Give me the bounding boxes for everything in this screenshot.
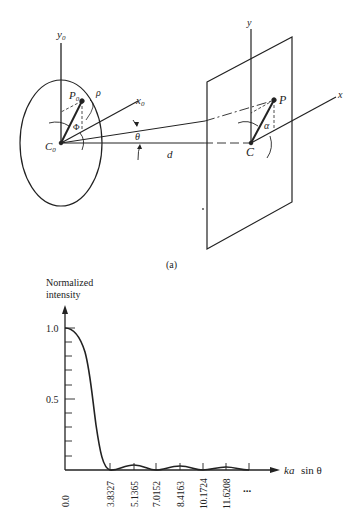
label-phi: Φ — [73, 122, 80, 132]
xlabel-ka: ka — [284, 464, 295, 476]
label-p: P — [278, 93, 287, 107]
xtick-label-4: 8.4163 — [176, 481, 186, 507]
label-y0: y0 — [56, 28, 66, 42]
xlabel-sin-theta: sin θ — [301, 464, 322, 476]
label-y: y — [246, 17, 252, 28]
label-p0: P0 — [68, 89, 80, 103]
label-d: d — [167, 148, 173, 160]
xtick-label-2: 5.1365 — [130, 481, 140, 507]
label-x0: x0 — [135, 94, 145, 108]
phi-arc — [49, 122, 69, 126]
speck — [202, 208, 204, 210]
theta-arrowhead-bottom — [137, 144, 142, 149]
label-theta: θ — [135, 131, 140, 142]
label-rho: ρ — [95, 87, 101, 98]
caption-a: (a) — [166, 259, 177, 271]
phi-arc-lower — [80, 133, 84, 150]
ray-to-p — [61, 121, 205, 143]
c0-point — [59, 141, 63, 145]
y-ticks — [65, 328, 75, 456]
chart-labels: Normalized intensity 1.0 0.5 ka sin θ 0.… — [46, 277, 322, 509]
y-axis-arrowhead — [62, 305, 68, 314]
xtick-label-1: 3.8327 — [106, 481, 116, 507]
alpha-arc — [238, 122, 258, 126]
xtick-ellipsis: ... — [243, 482, 252, 494]
intensity-curve — [65, 328, 249, 470]
diagram-labels: y0 x0 P0 C0 ρ Φ θ d y x P C α (a) — [45, 17, 343, 271]
aperture-diagram — [20, 29, 336, 249]
alpha-arc-lower — [267, 136, 271, 158]
x-axis-arrowhead — [270, 467, 280, 473]
label-alpha: α — [264, 120, 270, 131]
label-x: x — [337, 89, 343, 100]
ylabel-line1: Normalized — [46, 277, 93, 288]
figure: y0 x0 P0 C0 ρ Φ θ d y x P C α (a) — [0, 0, 351, 509]
xtick-label-3: 7.0152 — [152, 481, 162, 507]
ytick-label-1: 1.0 — [46, 323, 59, 334]
xtick-label-5: 10.1724 — [199, 478, 209, 509]
ytick-label-05: 0.5 — [46, 394, 59, 405]
ylabel-line2: intensity — [46, 289, 80, 300]
label-c: C — [246, 145, 255, 159]
theta-arrowhead-top — [134, 122, 139, 127]
intensity-chart — [62, 305, 280, 473]
xtick-label-6: 11.6208 — [222, 478, 232, 509]
label-c0: C0 — [45, 140, 56, 154]
xtick-label-0: 0.0 — [61, 495, 71, 507]
